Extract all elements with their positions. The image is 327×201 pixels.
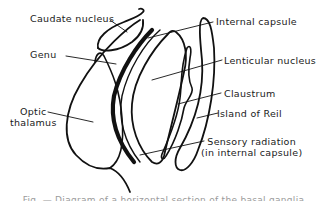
label-optic-thalamus: Optic thalamus [10,106,57,128]
figure-caption: Fig. — Diagram of a horizontal section o… [0,195,327,201]
label-caudate-nucleus: Caudate nucleus [30,13,114,24]
label-genu: Genu [30,49,56,60]
label-lenticular-nucleus: Lenticular nucleus [224,55,316,66]
thalamus-inner-edge [95,53,123,168]
lenticular-nucleus-shape [132,31,186,164]
label-claustrum: Claustrum [224,88,276,99]
label-sensory-radiation-line1: Sensory radiation [201,136,302,147]
optic-thalamus-outline [67,20,140,192]
label-optic-thalamus-line2: thalamus [10,117,57,128]
label-optic-thalamus-line1: Optic [10,106,57,117]
leader-lenticular [152,60,222,80]
label-internal-capsule: Internal capsule [216,16,297,27]
label-island-of-reil: Island of Reil [217,108,282,119]
label-sensory-radiation: Sensory radiation (in internal capsule) [201,136,302,158]
label-sensory-radiation-line2: (in internal capsule) [201,147,302,158]
brain-section-diagram [0,0,327,201]
leader-genu [66,56,116,64]
leader-sensory-radiation [140,141,204,155]
